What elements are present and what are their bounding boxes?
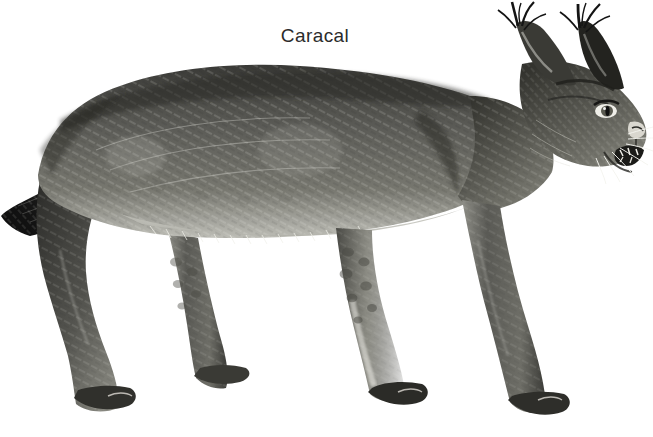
page-title: Caracal: [0, 25, 630, 47]
illustration-page: Caracal: [0, 0, 653, 437]
caracal-illustration: [0, 0, 653, 437]
